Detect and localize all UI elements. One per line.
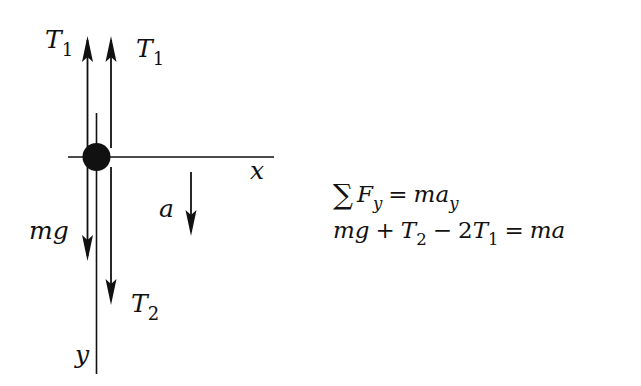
a-text: a — [159, 194, 174, 223]
t1-right-arrow — [106, 36, 117, 148]
eq1-lhs-sub: y — [373, 194, 382, 213]
t1-left-arrow — [82, 36, 93, 148]
t1-left-sub: 1 — [62, 39, 73, 60]
t1-right-base: T — [136, 34, 153, 63]
eq2-coef: 2 — [458, 217, 473, 243]
eq2-term3-sub: 1 — [488, 230, 499, 249]
t1-left-base: T — [45, 25, 62, 54]
free-body-diagram — [0, 0, 641, 386]
eq1-lhs-base: F — [357, 181, 373, 207]
equation-sum-forces: ∑Fy=may — [333, 181, 459, 209]
acceleration-arrow — [186, 172, 197, 236]
equation-expanded: mg+T2−2T1=ma — [333, 219, 565, 242]
t2-arrow — [106, 167, 117, 305]
eq2-term3-base: T — [473, 217, 488, 243]
x-axis-label: x — [250, 158, 264, 183]
eq2-term2-sub: 2 — [416, 230, 427, 249]
eq2-rhs: ma — [530, 217, 566, 243]
t2-sub: 2 — [148, 303, 159, 324]
x-text: x — [250, 156, 264, 185]
y-axis-label: y — [75, 342, 89, 367]
acceleration-label: a — [159, 196, 174, 221]
eq1-rhs-base: ma — [414, 181, 450, 207]
mass-point — [83, 143, 111, 171]
eq2-term1: mg — [333, 217, 370, 243]
sigma-symbol: ∑ — [333, 178, 357, 211]
eq2-term2-base: T — [401, 217, 416, 243]
t1-right-label: T1 — [136, 36, 164, 61]
eq2-equals: = — [499, 217, 530, 243]
mg-text: mg — [29, 216, 69, 245]
y-text: y — [75, 340, 89, 369]
t1-left-label: T1 — [45, 27, 73, 52]
mg-label: mg — [29, 218, 69, 243]
eq1-equals: = — [382, 181, 413, 207]
eq1-rhs-sub: y — [449, 194, 458, 213]
t1-right-sub: 1 — [153, 48, 164, 69]
t2-label: T2 — [131, 291, 159, 316]
t2-base: T — [131, 289, 148, 318]
eq2-plus: + — [370, 217, 401, 243]
mg-arrow — [82, 167, 93, 261]
eq2-minus: − — [427, 217, 458, 243]
